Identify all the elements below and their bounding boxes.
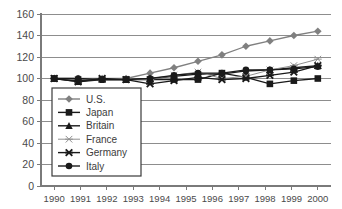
chart-svg: 020406080100120140160 199019911992199319… <box>0 0 342 209</box>
y-tick-label: 40 <box>22 137 34 149</box>
legend-label: U.S. <box>86 94 105 105</box>
y-tick-label: 0 <box>28 180 34 192</box>
data-point-marker <box>219 70 226 77</box>
data-point-marker <box>99 76 106 83</box>
data-point-marker <box>315 75 322 82</box>
data-point-marker <box>267 67 274 74</box>
chart-canvas: 020406080100120140160 199019911992199319… <box>0 0 342 209</box>
data-point-marker <box>314 27 322 35</box>
x-tick-label: 1992 <box>96 193 117 204</box>
legend-label: Japan <box>86 107 113 118</box>
y-tick-label: 120 <box>16 51 34 63</box>
data-point-marker <box>195 70 202 77</box>
x-tick-label: 1990 <box>44 193 65 204</box>
x-axis-tick-labels: 1990199119921993199419951996199719981999… <box>44 193 329 204</box>
legend-label: Germany <box>86 147 127 158</box>
data-point-marker <box>218 51 226 59</box>
data-point-marker <box>123 76 130 83</box>
data-point-marker <box>291 77 298 84</box>
y-tick-label: 60 <box>22 115 34 127</box>
data-point-marker <box>51 75 58 82</box>
y-axis-tick-labels: 020406080100120140160 <box>16 8 34 192</box>
y-tick-label: 100 <box>16 72 34 84</box>
series-line <box>54 31 318 78</box>
chart-legend: U.S.JapanBritainFranceGermanyItaly <box>52 88 141 176</box>
x-tick-label: 2000 <box>307 193 328 204</box>
y-tick-label: 160 <box>16 8 34 20</box>
legend-label: Britain <box>86 120 114 131</box>
x-tick-label: 1996 <box>202 193 223 204</box>
x-tick-label: 1998 <box>255 193 276 204</box>
legend-label: France <box>86 134 118 145</box>
y-tick-label: 140 <box>16 29 34 41</box>
data-point-marker <box>75 75 82 82</box>
y-tick-label: 80 <box>22 94 34 106</box>
data-point-marker <box>315 63 322 70</box>
x-tick-label: 1993 <box>123 193 144 204</box>
data-point-marker <box>267 81 274 88</box>
data-point-marker <box>242 42 250 50</box>
legend-swatch-marker <box>66 109 73 116</box>
data-point-marker <box>171 72 178 79</box>
legend-label: Italy <box>86 161 104 172</box>
data-point-marker <box>194 58 202 66</box>
data-point-marker <box>266 37 274 45</box>
x-tick-label: 1994 <box>149 193 170 204</box>
x-tick-label: 1999 <box>281 193 302 204</box>
data-point-marker <box>170 64 178 72</box>
data-point-marker <box>147 75 154 82</box>
data-point-marker <box>243 67 250 74</box>
data-point-marker <box>290 32 298 40</box>
y-tick-label: 20 <box>22 158 34 170</box>
x-tick-label: 1991 <box>70 193 91 204</box>
x-tick-label: 1995 <box>175 193 196 204</box>
legend-swatch-marker <box>66 163 73 170</box>
x-tick-label: 1997 <box>228 193 249 204</box>
data-point-marker <box>291 66 298 73</box>
line-chart: 020406080100120140160 199019911992199319… <box>0 0 342 209</box>
